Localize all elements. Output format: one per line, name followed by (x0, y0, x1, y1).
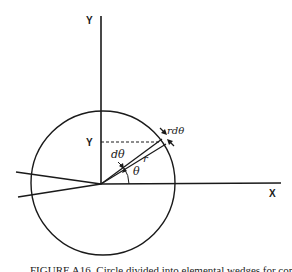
d-theta-label: dθ (111, 148, 125, 161)
radial-line-1 (101, 139, 162, 184)
polar-coordinate-diagram: Y X Y dθ r θ rdθ (0, 0, 292, 272)
wedge-upper-line (16, 172, 101, 184)
y-axis-label: Y (86, 15, 93, 26)
figure-caption: FIGURE A16. Circle divided into elementa… (30, 264, 292, 272)
theta-label: θ (133, 165, 140, 178)
x-axis-label: X (269, 188, 276, 199)
r-d-theta-label: rdθ (167, 125, 184, 136)
x-axis (101, 183, 281, 184)
y-value-label: Y (86, 137, 93, 148)
